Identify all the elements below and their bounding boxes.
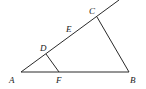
label-a: A [8, 75, 15, 85]
label-e: E [65, 24, 72, 34]
label-b: B [130, 75, 136, 85]
segment-bc [97, 17, 129, 72]
label-c: C [89, 6, 96, 16]
label-f: F [55, 75, 62, 85]
label-d: D [39, 43, 47, 53]
ray-a-through-c [21, 0, 119, 72]
geometry-diagram: A B C D E F [0, 0, 146, 89]
segment-df [46, 54, 59, 72]
